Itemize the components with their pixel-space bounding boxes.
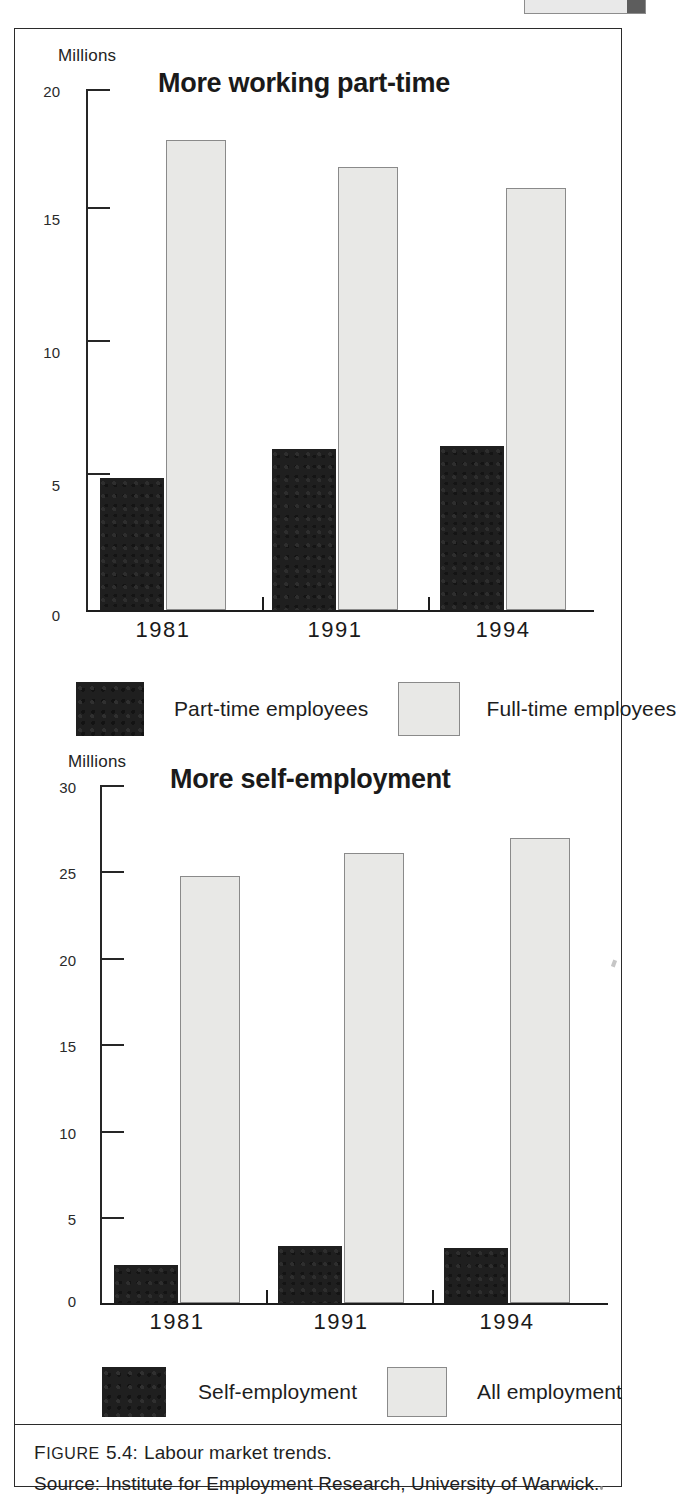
- chart2-y-tick-label-0: 0: [36, 1293, 76, 1310]
- chart2-bar-all-employment-1981: [180, 876, 240, 1303]
- scan-dot: [600, 1486, 603, 1490]
- figure-caption-prefix: FIGURE: [34, 1445, 100, 1462]
- chart2-legend-item-self-employment[interactable]: Self-employment: [102, 1367, 357, 1417]
- chart2-y-tick-label-15: 15: [36, 1038, 76, 1055]
- chart2-y-tick-label-30: 30: [36, 779, 76, 796]
- figure-caption: FIGURE5.4:Labour market trends. Source: …: [34, 1438, 624, 1499]
- chart2-legend-label-all-employment: All employment: [477, 1380, 622, 1404]
- chart2-x-tick-label-1991: 1991: [291, 1309, 391, 1335]
- chart2-y-tick-30: [100, 785, 124, 787]
- chart2-y-tick-10: [100, 1131, 124, 1133]
- chart2-title: More self-employment: [170, 764, 451, 795]
- chart2-legend-label-self-employment: Self-employment: [198, 1380, 357, 1404]
- chart2-bar-self-employment-1981: [114, 1265, 178, 1303]
- chart2-bar-all-employment-1994: [510, 838, 570, 1303]
- chart2-x-tick-1991: [266, 1290, 268, 1303]
- chart2-x-tick-label-1981: 1981: [127, 1309, 227, 1335]
- chart2-bar-self-employment-1991: [278, 1246, 342, 1303]
- chart2-y-tick-label-20: 20: [36, 952, 76, 969]
- chart2-y-tick-20: [100, 958, 124, 960]
- chart2-y-tick-label-5: 5: [36, 1211, 76, 1228]
- chart2-legend: Self-employment All employment: [102, 1367, 622, 1417]
- chart2-axis-unit-label: Millions: [68, 752, 126, 772]
- legend-swatch-self-employment: [102, 1367, 166, 1417]
- figure-caption-source: Source: Institute for Employment Researc…: [34, 1469, 624, 1499]
- caption-divider: [14, 1424, 622, 1425]
- chart2-x-axis: [100, 1303, 608, 1305]
- figure-caption-number: 5.4:: [106, 1442, 138, 1463]
- chart2-x-tick-1994: [432, 1290, 434, 1303]
- chart2-y-tick-label-10: 10: [36, 1125, 76, 1142]
- legend-swatch-all-employment: [387, 1367, 447, 1417]
- chart2-y-tick-label-25: 25: [36, 865, 76, 882]
- figure-caption-text: Labour market trends.: [144, 1442, 332, 1463]
- chart2-y-tick-25: [100, 871, 124, 873]
- chart2-legend-item-all-employment[interactable]: All employment: [387, 1367, 622, 1417]
- chart2-y-tick-5: [100, 1217, 124, 1219]
- chart2-bar-all-employment-1991: [344, 853, 404, 1303]
- chart2-x-tick-label-1994: 1994: [457, 1309, 557, 1335]
- chart-self-employment: Millions More self-employment 30 25 20 1…: [0, 0, 656, 1400]
- chart2-y-tick-15: [100, 1044, 124, 1046]
- chart2-bar-self-employment-1994: [444, 1248, 508, 1303]
- figure-caption-line-1: FIGURE5.4:Labour market trends.: [34, 1438, 624, 1469]
